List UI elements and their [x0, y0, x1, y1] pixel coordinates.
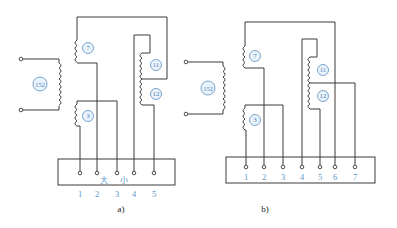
- terminal-7: [353, 165, 357, 169]
- terminal-number: 1: [244, 172, 248, 182]
- primary-winding-152: 152: [19, 57, 61, 112]
- terminal-2: [95, 171, 99, 175]
- panel-a: 152 7 3 11 12: [19, 17, 175, 214]
- input-terminal-bottom: [184, 112, 188, 116]
- terminal-number: 2: [95, 189, 99, 199]
- transformer-label: 152: [35, 81, 45, 88]
- terminal-5: [318, 165, 322, 169]
- coil-11-winding-icon: [308, 57, 310, 83]
- terminal-number: 5: [152, 189, 156, 199]
- svg-text:7: 7: [253, 52, 257, 60]
- coil-7-winding-icon: [75, 40, 77, 62]
- transformer-label: 152: [203, 85, 213, 92]
- terminal-number: 3: [115, 189, 119, 199]
- primary-winding-152-b: 152: [184, 60, 225, 116]
- svg-text:12: 12: [320, 92, 328, 100]
- coil-3-b: 3: [243, 105, 283, 165]
- svg-text:7: 7: [86, 44, 90, 52]
- coil-3-winding-icon: [243, 108, 245, 130]
- switch-label-large: 大: [100, 175, 108, 185]
- terminal-number: 7: [353, 172, 357, 182]
- coil-3-winding-icon: [75, 104, 77, 126]
- switch-label-small: 小: [120, 176, 128, 185]
- svg-text:11: 11: [320, 66, 327, 74]
- terminal-block-b: 1 2 3 4 5 6 7: [226, 157, 375, 183]
- svg-text:3: 3: [86, 112, 90, 120]
- panel-b: 152 7 3 11 12: [184, 22, 375, 214]
- coil-3: 3: [75, 101, 117, 172]
- terminal-2: [262, 165, 266, 169]
- svg-text:11: 11: [153, 61, 160, 69]
- terminal-number: 1: [78, 189, 82, 199]
- terminal-number: 4: [132, 189, 137, 199]
- terminal-3: [115, 171, 119, 175]
- panel-a-caption: a): [118, 204, 125, 214]
- coil-7-winding-icon: [243, 46, 245, 68]
- coil-152-winding-icon: [223, 66, 225, 110]
- input-terminal-bottom: [19, 108, 23, 112]
- coil-12-winding-icon: [140, 79, 142, 105]
- coil-11-12-b: 11 12: [302, 39, 355, 165]
- coil-152-winding-icon: [59, 63, 61, 105]
- panel-b-caption: b): [261, 204, 269, 214]
- terminal-4: [300, 165, 304, 169]
- terminal-6: [333, 165, 337, 169]
- svg-text:12: 12: [153, 90, 161, 98]
- terminal-3: [281, 165, 285, 169]
- terminal-5: [152, 171, 156, 175]
- terminal-1: [78, 171, 82, 175]
- input-terminal-top: [184, 60, 188, 64]
- input-terminal-top: [19, 57, 23, 61]
- svg-text:3: 3: [253, 116, 257, 124]
- coil-11-12: 11 12: [134, 35, 162, 172]
- terminal-4: [132, 171, 136, 175]
- terminal-number: 3: [281, 172, 285, 182]
- terminal-number: 5: [318, 172, 322, 182]
- coil-11-winding-icon: [140, 53, 142, 79]
- coil-12-winding-icon: [308, 83, 310, 109]
- wiring-diagram: 152 7 3 11 12: [0, 0, 397, 228]
- terminal-number: 2: [262, 172, 266, 182]
- terminal-number: 4: [300, 172, 305, 182]
- terminal-1: [244, 165, 248, 169]
- terminal-number: 6: [333, 172, 337, 182]
